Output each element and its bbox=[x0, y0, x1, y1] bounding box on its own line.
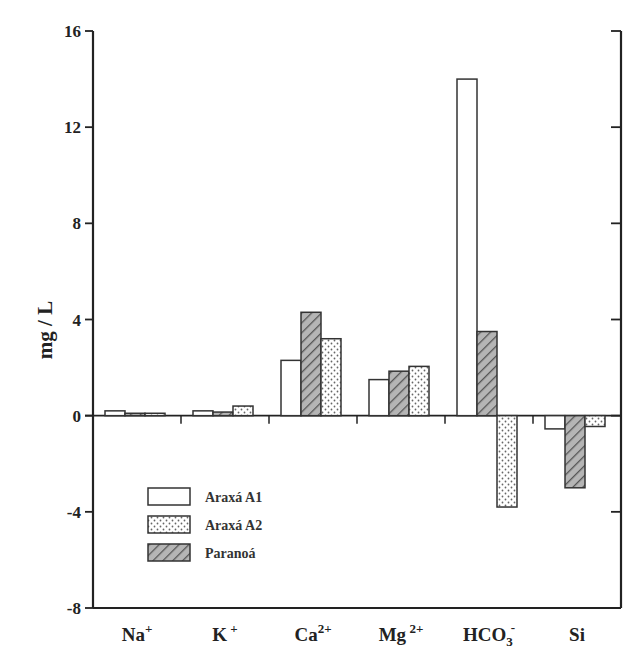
bar-hatched bbox=[301, 312, 321, 415]
legend-label: Araxá A1 bbox=[205, 490, 262, 505]
category-label: Na+ bbox=[122, 621, 153, 645]
bar-dotted bbox=[233, 406, 253, 416]
y-tick-label: 0 bbox=[73, 407, 82, 426]
bar-open bbox=[193, 411, 213, 416]
legend-label: Araxá A2 bbox=[205, 518, 262, 533]
bar-hatched bbox=[477, 332, 497, 416]
category-label: K + bbox=[212, 621, 237, 645]
y-tick-label: 4 bbox=[73, 311, 82, 330]
bar-hatched bbox=[213, 412, 233, 416]
legend-swatch-hatched bbox=[148, 544, 190, 561]
bar-open bbox=[105, 411, 125, 416]
y-tick-label: 12 bbox=[64, 118, 81, 137]
y-tick-label: 8 bbox=[73, 214, 82, 233]
y-tick-label: -4 bbox=[67, 503, 82, 522]
y-tick-label: 16 bbox=[64, 22, 81, 41]
bar-open bbox=[369, 380, 389, 416]
bar-dotted bbox=[321, 339, 341, 416]
bar-open bbox=[281, 360, 301, 415]
bar-open bbox=[545, 416, 565, 429]
legend: Araxá A1Araxá A2Paranoá bbox=[148, 488, 262, 561]
y-tick-label: -8 bbox=[67, 599, 81, 618]
bar-open bbox=[457, 79, 477, 416]
y-axis-label: mg / L bbox=[33, 301, 57, 359]
bar-hatched bbox=[565, 416, 585, 488]
bar-hatched bbox=[389, 371, 409, 415]
bar-dotted bbox=[145, 413, 165, 415]
bar-dotted bbox=[497, 416, 517, 507]
category-label: HCO3- bbox=[463, 620, 515, 649]
bar-chart: 1612840-4-8 Na+K +Ca2+Mg 2+HCO3-Si Araxá… bbox=[0, 0, 644, 665]
bar-hatched bbox=[125, 413, 145, 415]
legend-label: Paranoá bbox=[205, 546, 256, 561]
legend-swatch-open bbox=[148, 488, 190, 505]
bars bbox=[105, 79, 605, 507]
legend-swatch-dotted bbox=[148, 516, 190, 533]
x-axis-labels: Na+K +Ca2+Mg 2+HCO3-Si bbox=[122, 620, 585, 649]
category-label: Si bbox=[569, 624, 585, 645]
bar-dotted bbox=[585, 416, 605, 427]
category-label: Ca2+ bbox=[294, 621, 331, 645]
category-label: Mg 2+ bbox=[379, 621, 424, 645]
bar-dotted bbox=[409, 366, 429, 415]
